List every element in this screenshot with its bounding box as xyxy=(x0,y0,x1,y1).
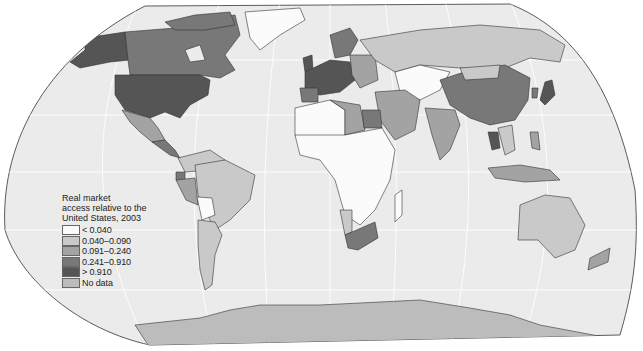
legend-label: 0.241–0.910 xyxy=(82,257,131,267)
legend-swatch xyxy=(62,225,80,235)
legend-label: 0.040–0.090 xyxy=(82,236,131,246)
world-map xyxy=(0,0,643,351)
region-mongolia xyxy=(460,65,500,80)
legend-swatch xyxy=(62,246,80,256)
legend-item: 0.241–0.910 xyxy=(62,257,182,268)
legend-title-line: access relative to the xyxy=(62,203,152,213)
legend-swatch xyxy=(62,278,80,288)
region-iberia xyxy=(300,88,318,102)
legend-item: 0.091–0.240 xyxy=(62,246,182,257)
region-korea xyxy=(532,88,538,98)
legend-label: < 0.040 xyxy=(82,225,112,235)
legend-swatch xyxy=(62,257,80,267)
legend-item: No data xyxy=(62,278,182,289)
legend-swatch xyxy=(62,267,80,277)
legend-title-line: Real market xyxy=(62,193,152,203)
legend-label: 0.091–0.240 xyxy=(82,246,131,256)
legend-item: > 0.910 xyxy=(62,267,182,278)
legend-swatch xyxy=(62,236,80,246)
legend-item: 0.040–0.090 xyxy=(62,236,182,247)
map-legend: Real market access relative to the Unite… xyxy=(62,193,182,288)
legend-label: No data xyxy=(82,278,113,288)
legend-title: Real market access relative to the Unite… xyxy=(62,193,152,223)
legend-label: > 0.910 xyxy=(82,267,112,277)
legend-item: < 0.040 xyxy=(62,225,182,236)
legend-title-line: United States, 2003 xyxy=(62,213,152,223)
region-egypt xyxy=(362,110,382,128)
